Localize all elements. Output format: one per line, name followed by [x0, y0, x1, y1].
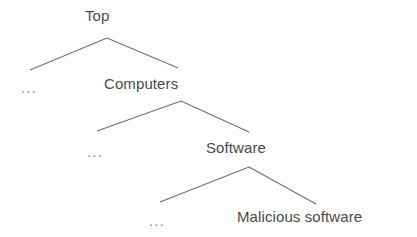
- tree-node-ellipsis-level2: ...: [87, 143, 103, 160]
- tree-node-ellipsis-level1: ...: [21, 79, 37, 96]
- tree-edges-layer: [0, 0, 417, 237]
- edge-top-right: [107, 38, 178, 68]
- tree-node-malicious-software: Malicious software: [237, 208, 362, 225]
- tree-node-software: Software: [206, 139, 266, 156]
- edge-software-left: [160, 167, 249, 202]
- edge-software-right: [249, 167, 316, 204]
- tree-node-computers: Computers: [104, 75, 178, 92]
- edge-computers-left: [97, 101, 181, 131]
- edge-computers-right: [181, 101, 249, 132]
- tree-node-ellipsis-level3: ...: [149, 212, 165, 229]
- tree-node-top: Top: [85, 7, 110, 24]
- edge-top-left: [30, 38, 107, 70]
- hierarchy-tree-diagram: Top ... Computers ... Software ... Malic…: [0, 0, 417, 237]
